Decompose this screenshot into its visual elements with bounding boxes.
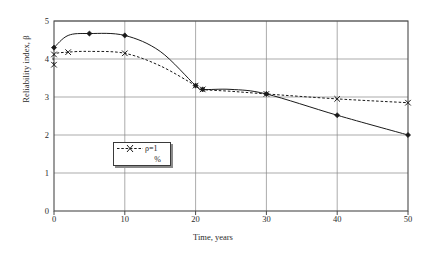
plot-area: [0, 0, 426, 256]
chart-container: Reliability index, β Time, years 012345 …: [0, 0, 426, 256]
legend-label-2: %: [154, 155, 161, 164]
chart-legend: ρ=1 %: [113, 142, 171, 166]
series-1: [51, 31, 410, 138]
legend-item-2: %: [114, 154, 170, 165]
legend-item-1: ρ=1: [114, 143, 170, 154]
legend-swatch-dashed-cross: [117, 144, 143, 153]
legend-label-1: ρ=1: [145, 144, 158, 153]
